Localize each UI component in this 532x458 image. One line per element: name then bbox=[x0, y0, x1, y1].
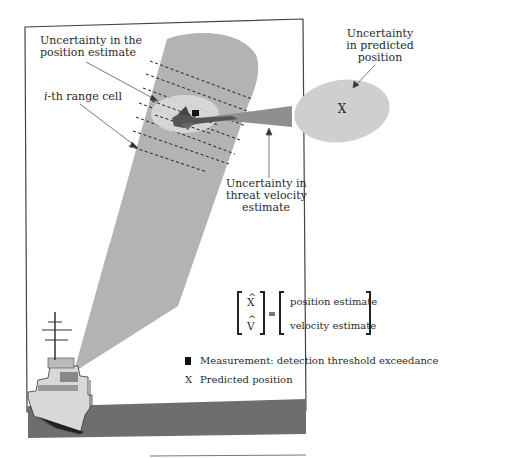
range-cell-label: i-th range cell bbox=[44, 91, 122, 103]
velocity-uncertainty-label: Uncertainty in threat velocity estimate bbox=[226, 178, 306, 214]
position-uncertainty-label: Uncertainty in the position estimate bbox=[40, 35, 130, 59]
range-cell-text: -th range cell bbox=[48, 90, 122, 103]
predicted-x-icon: X bbox=[185, 370, 195, 389]
legend-label-measurement: Measurement: detection threshold exceeda… bbox=[200, 351, 438, 370]
position-uncertainty-line2: position estimate bbox=[40, 47, 130, 59]
position-estimate: position estimate bbox=[290, 296, 377, 307]
legend: Measurement: detection threshold exceeda… bbox=[185, 351, 438, 389]
state-equation: ^ X ^ V position estimate velocity estim… bbox=[236, 290, 396, 336]
predicted-uncertainty-label: Uncertainty in predicted position bbox=[345, 28, 415, 64]
measurement-square-icon bbox=[185, 357, 191, 365]
predicted-position-marker: X bbox=[333, 103, 351, 115]
measurement-marker bbox=[192, 110, 199, 116]
x-symbol: X bbox=[247, 296, 254, 308]
diagram-graphics bbox=[0, 0, 532, 458]
predicted-uncertainty-line3: position bbox=[345, 52, 415, 64]
legend-label-predicted: Predicted position bbox=[200, 370, 293, 389]
legend-item-predicted: X Predicted position bbox=[185, 370, 438, 389]
legend-item-measurement: Measurement: detection threshold exceeda… bbox=[185, 351, 438, 370]
diagram-canvas: Uncertainty in the position estimate i-t… bbox=[0, 0, 532, 458]
v-symbol: V bbox=[247, 320, 255, 332]
velocity-estimate: velocity estimate bbox=[290, 320, 376, 331]
velocity-uncertainty-line3: estimate bbox=[226, 202, 306, 214]
